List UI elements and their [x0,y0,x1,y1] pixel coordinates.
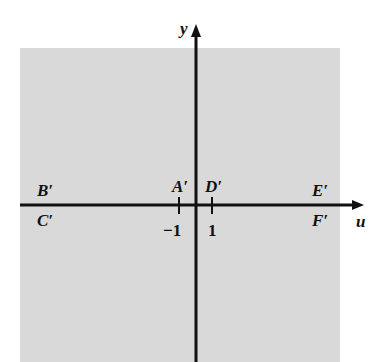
point-label-f: F′ [312,212,328,229]
tick-label-1: 1 [208,222,217,239]
u-axis-arrow-icon [352,200,364,210]
point-label-b: B′ [37,182,53,199]
point-label-c: C′ [37,212,53,229]
tick-label-minus-1: −1 [163,222,181,239]
y-axis-label: y [180,20,188,37]
point-label-d: D′ [205,178,222,195]
point-label-a: A′ [172,178,188,195]
u-axis-label: u [356,213,365,230]
y-axis-arrow-icon [191,24,201,37]
point-label-e: E′ [312,182,328,199]
